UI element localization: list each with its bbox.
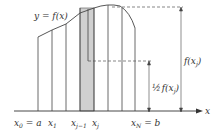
x-axis-arrow-icon [196, 109, 203, 114]
tick-label-xjm1: xj−1 [71, 118, 87, 130]
tick-label-xj: xj [92, 118, 99, 130]
tick-label-x1: x1 [48, 118, 57, 129]
curve-label: y = f(x) [33, 11, 68, 21]
shaded-subinterval [80, 8, 94, 111]
x-axis-label: x [205, 106, 210, 116]
tick-label-x0: x0 = a [14, 118, 42, 129]
tick-label-xN: xN = b [131, 118, 161, 129]
full-height-arrow [180, 7, 183, 112]
half-height-arrow [148, 61, 151, 112]
riemann-sum-diagram: x y = f(x) x0 = a x1 xj−1 xj xN = b f(xj… [0, 0, 214, 136]
half-height-label: ½f(xj) [152, 83, 180, 95]
full-height-label: f(xj) [183, 56, 202, 68]
